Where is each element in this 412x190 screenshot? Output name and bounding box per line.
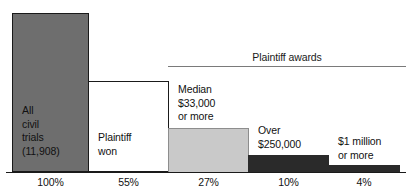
funnel-bar-chart: Plaintiff awards All civil trials (11,90… <box>0 0 412 190</box>
plaintiff-awards-bracket-line <box>168 66 406 67</box>
bar-median-33000-or-more <box>168 128 249 172</box>
tick-label-over-250000: 10% <box>248 176 329 188</box>
bar-over-250000 <box>248 155 329 172</box>
tick-label-plaintiff-won: 55% <box>88 176 169 188</box>
plaintiff-awards-annotation: Plaintiff awards <box>168 51 406 63</box>
axis-baseline <box>6 172 406 173</box>
tick-label-all-civil-trials: 100% <box>12 176 89 188</box>
bar-label-all-civil-trials: All civil trials (11,908) <box>22 104 60 158</box>
bar-plaintiff-won <box>88 81 169 172</box>
bar-label-over-250000: Over $250,000 <box>258 124 301 151</box>
bar-1-million-or-more <box>328 165 400 172</box>
plot-area: Plaintiff awards All civil trials (11,90… <box>0 0 412 190</box>
tick-label-1-million-or-more: 4% <box>328 176 400 188</box>
bar-label-median-33000-or-more: Median $33,000 or more <box>178 83 215 124</box>
bar-label-1-million-or-more: $1 million or more <box>338 135 381 162</box>
tick-label-median-33000-or-more: 27% <box>168 176 249 188</box>
bar-label-plaintiff-won: Plaintiff won <box>98 131 131 158</box>
